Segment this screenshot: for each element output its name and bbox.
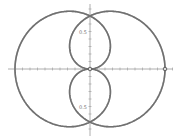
- tick-label-top: 0.5: [79, 29, 87, 35]
- tick-label-bottom: 0.5: [79, 104, 87, 110]
- origin-point: [88, 67, 92, 71]
- polar-curve-diagram: 0.5 0.5: [0, 0, 186, 140]
- right-intercept-point: [163, 67, 167, 71]
